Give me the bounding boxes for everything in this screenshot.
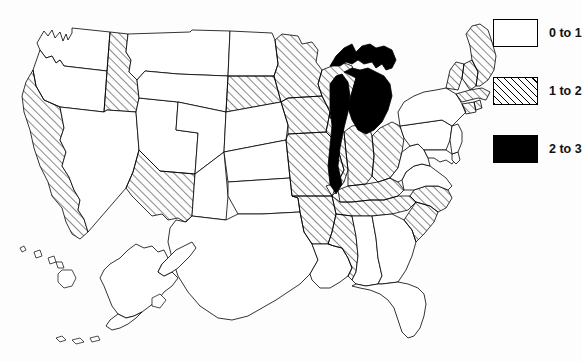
state-michigan <box>330 44 396 70</box>
legend-swatch-white <box>493 19 538 47</box>
state-texas <box>168 212 318 320</box>
legend-swatch-solid-black <box>493 135 538 163</box>
legend-item-2-to-3[interactable]: 2 to 3 <box>493 134 581 164</box>
state-iowa <box>281 96 330 134</box>
legend-item-0-to-1[interactable]: 0 to 1 <box>493 18 581 48</box>
state-new-jersey <box>450 124 462 154</box>
state-vermont <box>446 62 464 90</box>
legend-label-2-to-3: 2 to 3 <box>549 143 582 156</box>
state-oklahoma <box>228 178 300 214</box>
alaska-aleutian-islands <box>56 336 100 344</box>
state-minnesota <box>274 34 322 102</box>
state-alaska <box>100 244 178 318</box>
state-hawaii <box>20 246 76 288</box>
legend: 0 to 1 1 to 2 2 to 3 <box>493 18 581 192</box>
state-florida <box>352 282 426 338</box>
state-montana <box>126 30 230 80</box>
state-indiana <box>344 124 374 186</box>
legend-label-1-to-2: 1 to 2 <box>549 85 582 98</box>
map-figure: 0 to 1 1 to 2 2 to 3 <box>0 0 582 362</box>
state-massachusetts <box>456 88 490 102</box>
legend-item-1-to-2[interactable]: 1 to 2 <box>493 76 581 106</box>
legend-swatch-hatched <box>493 77 538 105</box>
state-north-dakota <box>228 31 278 76</box>
legend-label-0-to-1: 0 to 1 <box>549 27 582 40</box>
